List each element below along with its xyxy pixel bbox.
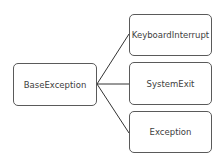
edge-to-keyboardinterrupt bbox=[97, 34, 129, 84]
node-label: SystemExit bbox=[147, 79, 195, 89]
node-baseexception: BaseException bbox=[13, 63, 97, 106]
node-keyboardinterrupt: KeyboardInterrupt bbox=[129, 14, 212, 56]
node-label: Exception bbox=[150, 127, 192, 137]
node-label: BaseException bbox=[24, 80, 87, 90]
node-systemexit: SystemExit bbox=[129, 62, 212, 105]
edge-to-exception bbox=[97, 84, 129, 133]
node-exception: Exception bbox=[129, 111, 212, 153]
node-label: KeyboardInterrupt bbox=[132, 30, 209, 40]
